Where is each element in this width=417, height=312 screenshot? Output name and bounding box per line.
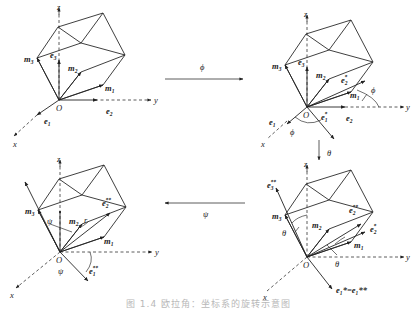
m3-vector bbox=[285, 215, 307, 257]
x-axis bbox=[14, 115, 37, 136]
e2-star-label: e2* bbox=[341, 74, 348, 86]
e1-label: e1 bbox=[44, 116, 51, 127]
e3-double-star-vector bbox=[276, 188, 307, 257]
m3-label: m3 bbox=[272, 61, 282, 72]
e2-double-star-label: e2** bbox=[349, 204, 358, 216]
m1-vector bbox=[307, 242, 351, 257]
m1-vector bbox=[60, 237, 104, 252]
phi-tick bbox=[362, 94, 367, 101]
theta-transition-label: θ bbox=[327, 148, 331, 158]
theta-arc-top bbox=[292, 215, 307, 223]
e3-double-star-label: e3** bbox=[267, 179, 276, 191]
x-axis bbox=[16, 252, 60, 288]
origin-label: O bbox=[56, 255, 62, 265]
e1-star-label: e1* bbox=[321, 111, 328, 123]
origin-label: O bbox=[303, 260, 309, 270]
origin-label: O bbox=[303, 110, 309, 120]
m3-vector bbox=[37, 58, 59, 100]
theta-tick-top bbox=[295, 227, 299, 232]
y-label: y bbox=[405, 102, 410, 112]
y-label: y bbox=[153, 95, 158, 105]
m2-label: m2 bbox=[68, 63, 78, 74]
e2-label: e2 bbox=[346, 113, 353, 124]
origin-label: O bbox=[56, 103, 62, 113]
m1-label: m1 bbox=[350, 90, 360, 101]
panel-after-theta: z y x O e3** m3 m2 e2** e2* m1 θ θ e₁*=e… bbox=[262, 159, 410, 302]
panel-after-psi: z y x O m3 m2 ψ r e2** m1 ψ e1** bbox=[9, 154, 159, 300]
m3-label: m3 bbox=[25, 206, 35, 217]
m1-label: m1 bbox=[104, 236, 114, 247]
m2-label: m2 bbox=[69, 216, 79, 227]
phi-transition-label: ϕ bbox=[200, 62, 205, 72]
r-label: r bbox=[84, 215, 88, 225]
m1-vector bbox=[59, 85, 103, 100]
e1-label: e1 bbox=[269, 117, 276, 128]
theta-angle-label-bottom: θ bbox=[335, 259, 339, 269]
z-label: z bbox=[303, 9, 308, 19]
theta-angle-label-top: θ bbox=[282, 228, 286, 238]
psi-angle-label-top: ψ bbox=[47, 216, 53, 226]
euler-angle-diagram: z y x O m3 e3 m2 m1 e2 e1 ϕ z y x O bbox=[0, 0, 417, 312]
psi-transition-label: ψ bbox=[203, 209, 209, 219]
z-label: z bbox=[303, 159, 308, 169]
m1-label: m1 bbox=[354, 240, 364, 251]
e1-double-star-label: e1** bbox=[89, 265, 98, 277]
e2-label: e2 bbox=[106, 106, 113, 117]
e1-equality-label: e₁*=e₁** bbox=[336, 285, 368, 295]
cube bbox=[38, 165, 126, 252]
z-label: z bbox=[56, 154, 61, 164]
m1-vector bbox=[307, 92, 351, 107]
m2-label: m2 bbox=[312, 220, 322, 231]
m3-vector bbox=[285, 65, 307, 107]
e2-star-label: e2* bbox=[370, 223, 377, 235]
phi-angle-label-right: ϕ bbox=[371, 85, 376, 95]
m1-label: m1 bbox=[105, 83, 115, 94]
x-label: x bbox=[260, 139, 265, 149]
x-label: x bbox=[12, 139, 17, 149]
e1-star-vector bbox=[307, 257, 332, 289]
phi-angle-label-bottom: ϕ bbox=[290, 127, 295, 137]
phi-arc-right bbox=[357, 90, 379, 107]
figure-caption: 图 1.4 欧拉角：坐标系的旋转示意图 bbox=[0, 297, 417, 310]
e1-double-star-vector bbox=[60, 252, 88, 281]
m3-label: m3 bbox=[24, 54, 34, 65]
panel-initial: z y x O m3 e3 m2 m1 e2 e1 bbox=[12, 2, 158, 149]
panel-after-phi: z y x O m3 e3 m2 e2* m1 ϕ e2 e1* e1 ϕ bbox=[260, 9, 410, 149]
y-label: y bbox=[405, 252, 410, 262]
y-label: y bbox=[154, 247, 159, 257]
psi-angle-label-bottom: ψ bbox=[58, 266, 64, 276]
m2-label: m2 bbox=[316, 70, 326, 81]
x-axis bbox=[267, 257, 307, 291]
m3-label: m3 bbox=[272, 211, 282, 222]
z-label: z bbox=[56, 2, 61, 12]
